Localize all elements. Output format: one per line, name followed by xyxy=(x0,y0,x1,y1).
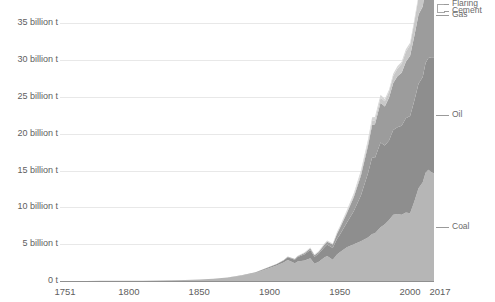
leader-line-oil xyxy=(436,115,449,116)
x-tick-label: 1751 xyxy=(54,287,75,297)
series-label-oil: Oil xyxy=(452,110,462,119)
x-tick-label: 2017 xyxy=(429,287,450,297)
x-tick-label: 1900 xyxy=(259,287,280,297)
leader-line-cement xyxy=(444,11,449,12)
co2-emissions-stacked-area-chart: 35 billion t30 billion t25 billion t20 b… xyxy=(0,0,495,302)
leader-line-flaring xyxy=(444,4,449,5)
leader-line-gas xyxy=(436,15,449,16)
leader-line-coal xyxy=(436,227,449,228)
x-tick-label: 1850 xyxy=(189,287,210,297)
series-label-cement: Cement xyxy=(452,6,482,15)
x-tick-label: 1950 xyxy=(329,287,350,297)
series-label-coal: Coal xyxy=(452,222,469,231)
x-tick-label: 2000 xyxy=(400,287,421,297)
x-tick-label: 1800 xyxy=(118,287,139,297)
x-axis-labels: 1751180018501900195020002017 xyxy=(0,0,495,302)
